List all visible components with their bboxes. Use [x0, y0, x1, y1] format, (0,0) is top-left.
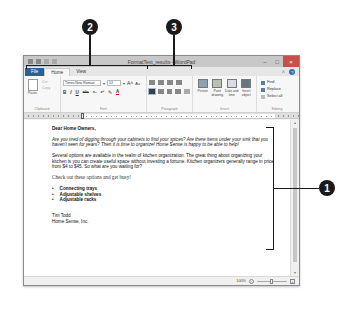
zoom-slider[interactable] [257, 281, 287, 282]
picture-icon [198, 79, 208, 88]
tab-file[interactable]: File [25, 68, 44, 76]
help-icon[interactable]: ? [289, 69, 295, 75]
shrink-font-button[interactable]: A˅ [135, 81, 140, 86]
vertical-scrollbar[interactable]: ▴ ▾ [290, 120, 299, 276]
callout-1: 1 [319, 180, 335, 196]
close-button[interactable]: × [283, 56, 299, 67]
font-group-label: Font [61, 107, 146, 111]
paragraph-settings-icon[interactable] [184, 89, 190, 94]
document-page[interactable]: Dear Home Owners, Are you tired of diggi… [24, 120, 290, 276]
zoom-level: 100% [236, 279, 246, 283]
minimize-ribbon-icon[interactable]: ˄ [282, 69, 285, 75]
increase-indent-icon[interactable] [158, 80, 164, 85]
clipboard-small-buttons: Cut Copy [42, 79, 50, 91]
wordpad-window: FormatText_results - WordPad – □ × File … [23, 55, 300, 286]
zoom-in-button[interactable]: + [290, 279, 295, 284]
zoom-slider-thumb[interactable] [270, 279, 273, 284]
bullet-list-icon[interactable] [167, 80, 173, 85]
paragraph-1: Are you tired of digging through your ca… [52, 137, 278, 148]
insert-group-label: Insert [193, 107, 256, 111]
tab-view[interactable]: View [70, 68, 92, 76]
ribbon-controls: ˄ ? [282, 69, 295, 75]
subscript-button[interactable]: x₂ [93, 90, 97, 94]
callout-2: 2 [82, 19, 98, 35]
ribbon: Paste Cut Copy Clipboard Times New Roman… [24, 76, 299, 113]
ruler[interactable] [24, 113, 299, 119]
tab-home[interactable]: Home [44, 68, 70, 76]
callout-3-line [173, 35, 175, 65]
line-spacing-icon[interactable] [176, 80, 182, 85]
zoom-out-button[interactable]: − [249, 279, 254, 284]
list-item: Adjustable racks [52, 197, 278, 203]
align-left-icon[interactable] [149, 89, 155, 94]
paragraph-group-bracket [148, 65, 192, 66]
font-name-dropdown-icon[interactable]: ▾ [103, 81, 105, 86]
status-bar: 100% − + [24, 276, 299, 285]
bold-button[interactable]: B [63, 90, 66, 95]
font-group: Times New Roman ▾ 12 ▾ A˄ A˅ B I U abc x… [61, 76, 147, 112]
paragraph-group-label: Paragraph [147, 107, 192, 111]
clipboard-group: Paste Cut Copy Clipboard [24, 76, 61, 112]
maximize-button[interactable]: □ [271, 56, 283, 67]
document-body[interactable]: Dear Home Owners, Are you tired of diggi… [52, 126, 278, 224]
editing-group: Find Replace Select all Editing [257, 76, 297, 112]
ruler-text-area [82, 114, 275, 118]
underline-button[interactable]: U [76, 90, 79, 95]
document-bracket-bottom [266, 249, 274, 250]
font-name-select[interactable]: Times New Roman [63, 80, 101, 86]
paint-drawing-icon [212, 79, 222, 88]
select-all-button[interactable]: Select all [261, 93, 295, 100]
clipboard-group-label: Clipboard [24, 107, 60, 111]
font-group-bracket [26, 65, 148, 66]
paragraph-2: Several options are available in the rea… [52, 153, 278, 169]
replace-button[interactable]: Replace [261, 86, 295, 93]
insert-object-icon [241, 79, 251, 88]
decrease-indent-icon[interactable] [149, 80, 155, 85]
document-area: Dear Home Owners, Are you tired of diggi… [24, 120, 299, 276]
font-color-button[interactable]: A [116, 89, 119, 95]
justify-icon[interactable] [175, 89, 181, 94]
bullet-list: Connecting trays Adjustable shelves Adju… [52, 186, 278, 203]
italic-button[interactable]: I [70, 90, 71, 95]
minimize-button[interactable]: – [259, 56, 271, 67]
strikethrough-button[interactable]: abc [83, 90, 89, 94]
find-button[interactable]: Find [261, 79, 295, 86]
align-right-icon[interactable] [167, 89, 173, 94]
align-center-icon[interactable] [158, 89, 164, 94]
callout-3: 3 [166, 19, 182, 35]
document-bracket [273, 127, 274, 250]
grow-font-button[interactable]: A˄ [127, 80, 133, 86]
document-bracket-top [266, 127, 274, 128]
indent-marker[interactable] [81, 113, 84, 119]
salutation: Dear Home Owners, [52, 126, 278, 131]
paste-button[interactable]: Paste [28, 91, 58, 95]
ribbon-tabs: File Home View ˄ ? [24, 67, 299, 76]
select-all-icon [261, 95, 265, 99]
paragraph-group-bracket-right [191, 65, 192, 69]
font-group-bracket-left [26, 65, 27, 69]
window-controls: – □ × [259, 56, 299, 67]
signature-company: Home Sense, Inc. [52, 219, 278, 225]
calendar-icon [227, 79, 237, 88]
callout-1-line [273, 188, 319, 189]
paragraph-group: Paragraph [147, 76, 193, 112]
highlight-color-button[interactable]: ✎ [108, 90, 112, 95]
font-size-dropdown-icon[interactable]: ▾ [123, 81, 125, 86]
scroll-up-icon[interactable]: ▴ [291, 120, 299, 126]
find-icon [261, 81, 265, 85]
scrollbar-thumb[interactable] [293, 128, 297, 262]
replace-icon [261, 88, 265, 92]
superscript-button[interactable]: x² [101, 90, 104, 94]
editing-group-label: Editing [257, 107, 297, 111]
callout-2-line [89, 35, 91, 65]
font-size-select[interactable]: 12 [107, 80, 121, 86]
paste-icon[interactable] [28, 79, 38, 91]
paragraph-3: Check out these options and get busy! [52, 175, 278, 180]
copy-button[interactable]: Copy [42, 85, 50, 91]
insert-group: Picture Paint drawing Date and time Inse… [193, 76, 257, 112]
